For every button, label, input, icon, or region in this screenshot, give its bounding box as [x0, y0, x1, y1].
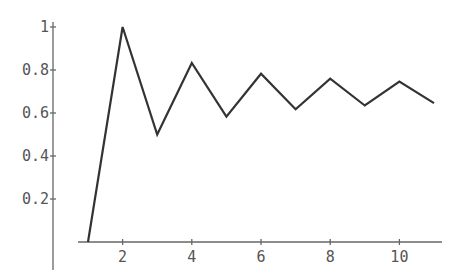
y-tick-label: 1: [40, 18, 49, 36]
y-tick-label: 0.6: [22, 104, 49, 122]
y-tick-label: 0.8: [22, 61, 49, 79]
x-tick-label: 8: [326, 248, 335, 266]
y-tick-label: 0.2: [22, 190, 49, 208]
y-tick-label: 0.4: [22, 147, 49, 165]
y-ticks: 0.20.40.60.81: [22, 18, 56, 208]
x-tick-label: 2: [118, 248, 127, 266]
line-chart: 0.20.40.60.81 246810: [0, 0, 450, 270]
x-tick-label: 6: [256, 248, 265, 266]
axes: [53, 22, 442, 270]
x-ticks: 246810: [118, 239, 408, 266]
data-line: [88, 27, 434, 242]
x-tick-label: 10: [390, 248, 408, 266]
x-tick-label: 4: [187, 248, 196, 266]
